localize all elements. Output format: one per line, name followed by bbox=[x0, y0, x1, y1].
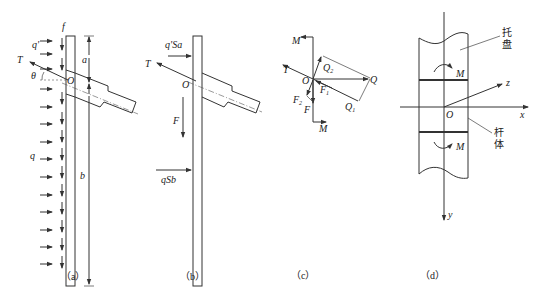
caption-b: （b） bbox=[180, 271, 205, 282]
panel-a: f q' T θ O a q b bbox=[17, 21, 138, 286]
label-q: q bbox=[30, 150, 35, 161]
caption-a: （a） bbox=[61, 271, 85, 282]
distributed-load-arrows bbox=[40, 41, 52, 264]
label-q-prime: q' bbox=[32, 39, 40, 50]
label-M-top: M bbox=[455, 68, 465, 79]
panel-c: M T O Q2 Q F1 F2 F Q1 M bbox=[283, 35, 378, 134]
pipe-stub bbox=[188, 73, 262, 113]
label-rod-2: 体 bbox=[494, 139, 504, 150]
label-O: O bbox=[67, 75, 74, 86]
panel-b: q'Sa T O F qSb bbox=[145, 36, 262, 286]
rod bbox=[66, 36, 75, 286]
label-M-bottom: M bbox=[455, 141, 465, 152]
caption-c: （c） bbox=[291, 270, 315, 281]
label-M-bottom: M bbox=[318, 123, 328, 134]
rod bbox=[193, 36, 202, 286]
label-f: f bbox=[62, 21, 66, 32]
panel-d: 托 盘 M z x O 杆 体 M y bbox=[400, 12, 528, 220]
figure-root: f q' T θ O a q b q'Sa T O F qSb bbox=[0, 0, 544, 300]
label-O: O bbox=[302, 75, 309, 86]
label-y: y bbox=[447, 209, 453, 220]
label-T: T bbox=[283, 64, 290, 75]
rod-leader-line bbox=[468, 118, 492, 133]
label-rod-1: 杆 bbox=[494, 127, 504, 138]
Q2-arrow bbox=[313, 57, 321, 79]
label-x: x bbox=[519, 109, 525, 120]
z-axis bbox=[444, 84, 502, 107]
label-F: F bbox=[303, 104, 311, 115]
label-O: O bbox=[182, 79, 189, 90]
label-z: z bbox=[505, 77, 510, 88]
label-F: F bbox=[172, 115, 180, 126]
label-theta: θ bbox=[31, 70, 36, 81]
force-diagram: f q' T θ O a q b q'Sa T O F qSb bbox=[0, 0, 544, 300]
label-O: O bbox=[446, 109, 453, 120]
moment-bottom-arc bbox=[434, 142, 452, 148]
dimension-lines bbox=[84, 36, 94, 286]
label-M-top: M bbox=[291, 35, 301, 46]
label-Q2: Q2 bbox=[323, 62, 333, 74]
label-T: T bbox=[145, 58, 152, 69]
label-tray-2: 盘 bbox=[502, 38, 512, 50]
label-q-prime-Sa: q'Sa bbox=[165, 39, 182, 50]
label-Q: Q bbox=[370, 74, 378, 85]
caption-d: （d） bbox=[420, 270, 445, 281]
label-Q1: Q1 bbox=[345, 101, 355, 113]
label-qSb: qSb bbox=[161, 174, 176, 185]
tension-arrow bbox=[157, 63, 196, 81]
tray-leader-line bbox=[460, 36, 500, 50]
label-F2: F2 bbox=[292, 94, 302, 106]
label-a: a bbox=[82, 54, 87, 65]
label-tray-1: 托 bbox=[502, 26, 512, 38]
moment-top-arc bbox=[434, 65, 452, 72]
label-T: T bbox=[17, 54, 24, 65]
label-b: b bbox=[80, 170, 85, 181]
